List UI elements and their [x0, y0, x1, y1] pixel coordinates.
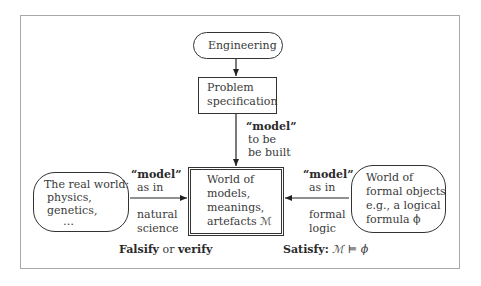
- world-of-models-node: World of models, meanings, artefacts ℳ: [188, 167, 284, 236]
- real-world-line-2: physics,: [47, 191, 92, 204]
- caption-satisfy: Satisfy: ℳ ⊨ ϕ: [283, 243, 368, 256]
- caption-satisfy-label: Satisfy:: [283, 243, 329, 256]
- models-line-2: models,: [207, 187, 250, 200]
- right-edge-below-1: formal: [309, 208, 345, 221]
- models-line-3: meanings,: [207, 201, 264, 214]
- left-edge-above: as in: [137, 181, 163, 194]
- left-edge-below-1: natural: [137, 208, 177, 221]
- top-edge-model-label: “model”: [246, 120, 297, 133]
- formal-line-4: formula ϕ: [366, 213, 421, 226]
- models-line-4: artefacts ℳ: [207, 215, 272, 228]
- models-line-1: World of: [207, 173, 254, 186]
- real-world-node: The real world: physics, genetics, …: [33, 172, 129, 232]
- real-world-line-4: …: [63, 215, 74, 228]
- right-edge-above: as in: [309, 181, 335, 194]
- engineering-label: Engineering: [208, 39, 277, 52]
- engineering-node: Engineering: [193, 32, 283, 59]
- caption-satisfy-formula: ℳ ⊨ ϕ: [329, 243, 368, 256]
- formal-line-3: e.g., a logical: [366, 199, 441, 212]
- left-edge-model-label: “model”: [131, 168, 182, 181]
- formal-line-2: formal objects: [366, 185, 446, 198]
- right-edge-model-label: “model”: [303, 168, 354, 181]
- caption-verify: verify: [178, 243, 213, 256]
- top-edge-line-1: to be: [248, 133, 276, 146]
- caption-falsify: Falsify: [119, 243, 159, 256]
- formal-line-1: World of: [366, 171, 413, 184]
- left-edge-below-2: science: [137, 222, 179, 235]
- caption-or: or: [159, 243, 178, 256]
- problem-specification-node: Problem specification: [198, 77, 277, 114]
- top-edge-line-2: be built: [248, 146, 291, 159]
- problem-spec-line-2: specification: [207, 95, 278, 108]
- real-world-line-1: The real world:: [44, 178, 129, 191]
- right-edge-below-2: logic: [309, 222, 336, 235]
- formal-objects-node: World of formal objects e.g., a logical …: [351, 165, 446, 233]
- problem-spec-line-1: Problem: [207, 81, 254, 94]
- caption-falsify-verify: Falsify or verify: [119, 243, 212, 256]
